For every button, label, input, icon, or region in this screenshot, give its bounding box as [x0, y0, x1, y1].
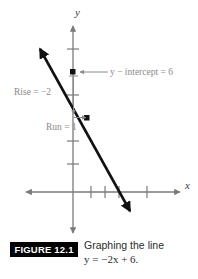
point-y-intercept [70, 69, 76, 75]
caption-line-1: Graphing the line [84, 238, 196, 252]
figure-caption: FIGURE 12.1 Graphing the line y = −2x + … [0, 236, 198, 279]
y-intercept-label: y − intercept = 6 [110, 67, 173, 77]
run-label: Run = 1 [46, 122, 77, 132]
x-axis-label: x [184, 179, 190, 191]
figure-number-badge: FIGURE 12.1 [10, 242, 78, 257]
coordinate-plane-graphic: y x Rise = −2 Run = 1 y − intercept = 6 [0, 0, 198, 236]
caption-body: Graphing the line y = −2x + 6. [84, 238, 196, 266]
rise-label: Rise = −2 [14, 87, 51, 97]
graph-canvas: y x Rise = −2 Run = 1 y − intercept = 6 [0, 0, 198, 236]
y-axis-label: y [74, 6, 80, 18]
figure-container: y x Rise = −2 Run = 1 y − intercept = 6 [0, 0, 198, 279]
caption-line-2: y = −2x + 6. [84, 252, 196, 266]
